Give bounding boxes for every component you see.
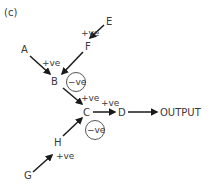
negative-feedback-label-c: −ve	[87, 125, 106, 135]
node-output: OUTPUT	[160, 107, 202, 118]
node-f: F	[85, 41, 91, 52]
edge-label-b-c: +ve	[81, 93, 100, 103]
edge-label-a-b: +ve	[42, 58, 61, 68]
node-c: C	[83, 107, 90, 118]
node-d: D	[118, 107, 126, 118]
edge-label-e-f: +ve	[81, 28, 100, 38]
edge-f-to-b	[62, 52, 83, 74]
feedback-pathway-diagram: (c) E F A B C D OUTPUT H G +ve +ve +ve +…	[0, 0, 214, 189]
figure-label: (c)	[4, 7, 17, 18]
edge-g-to-h	[33, 155, 52, 172]
node-b: B	[51, 76, 58, 87]
node-g: G	[24, 170, 32, 181]
node-h: H	[54, 137, 62, 148]
edge-label-c-d: +ve	[101, 98, 120, 108]
edge-label-g-h: +ve	[56, 151, 75, 161]
node-a: A	[21, 44, 28, 55]
node-e: E	[106, 16, 112, 27]
negative-feedback-label-b: −ve	[68, 77, 87, 87]
edge-h-to-c	[63, 118, 82, 136]
